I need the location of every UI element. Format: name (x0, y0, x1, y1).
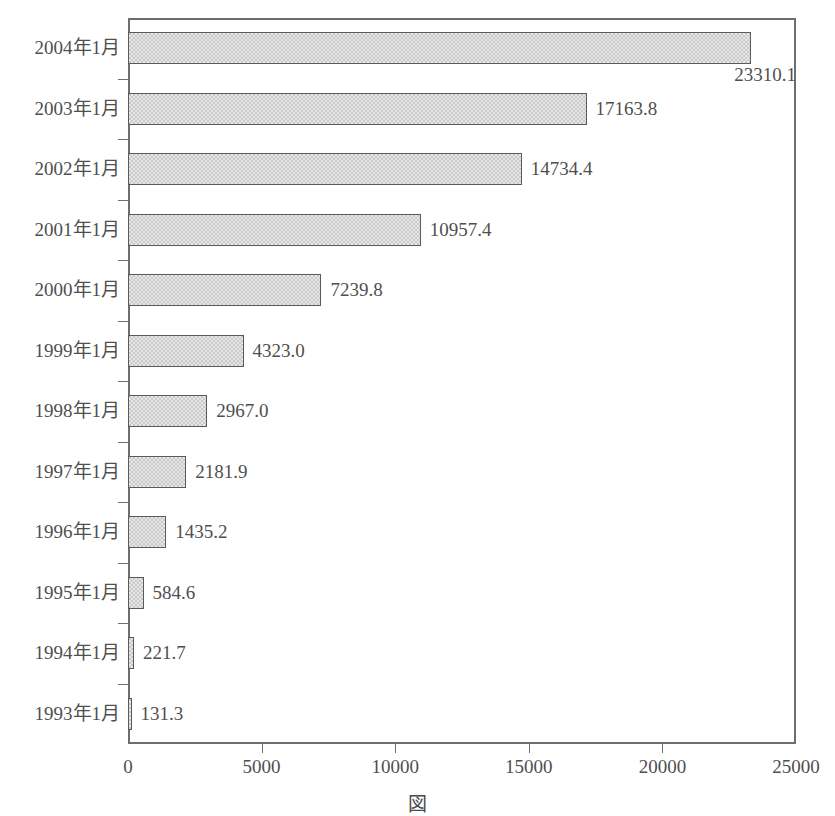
bar-value-label: 2181.9 (186, 456, 247, 488)
bar-track: 2967.0 (128, 381, 835, 442)
bar[interactable] (128, 32, 751, 64)
bar-track: 23310.1 (128, 18, 835, 79)
bar[interactable] (128, 214, 421, 246)
bar-value-label: 7239.8 (321, 274, 382, 306)
y-axis-tick (118, 623, 128, 624)
y-axis-tick (118, 502, 128, 503)
bar-track: 7239.8 (128, 260, 835, 321)
figure-caption: 図 (0, 789, 835, 816)
category-label: 1998年1月 (0, 381, 120, 442)
bar[interactable] (128, 153, 522, 185)
y-axis-tick (118, 79, 128, 80)
x-axis-tick-label: 10000 (371, 756, 419, 778)
y-axis-tick (118, 381, 128, 382)
category-label: 1994年1月 (0, 623, 120, 684)
x-axis-tick (395, 744, 396, 753)
bar[interactable] (128, 335, 244, 367)
bar-track: 4323.0 (128, 321, 835, 382)
category-label: 2002年1月 (0, 139, 120, 200)
bar-track: 10957.4 (128, 200, 835, 261)
bar-value-label: 221.7 (134, 637, 186, 669)
bar-value-label: 1435.2 (166, 516, 227, 548)
x-axis-tick (262, 744, 263, 753)
x-axis-tick (529, 744, 530, 753)
bar-track: 2181.9 (128, 442, 835, 503)
chart-row: 1994年1月221.7 (0, 623, 835, 684)
chart-row: 2002年1月14734.4 (0, 139, 835, 200)
chart-row: 1998年1月2967.0 (0, 381, 835, 442)
bar-track: 131.3 (128, 684, 835, 745)
bar[interactable] (128, 577, 144, 609)
x-axis-tick-label: 25000 (772, 756, 820, 778)
x-axis-tick-label: 15000 (505, 756, 553, 778)
category-label: 2004年1月 (0, 18, 120, 79)
category-label: 1999年1月 (0, 321, 120, 382)
y-axis-tick (118, 321, 128, 322)
category-label: 2001年1月 (0, 200, 120, 261)
y-axis-tick (118, 563, 128, 564)
y-axis-tick (118, 260, 128, 261)
bar-track: 17163.8 (128, 79, 835, 140)
bar-value-label: 2967.0 (207, 395, 268, 427)
x-axis-tick-label: 0 (123, 756, 133, 778)
bar[interactable] (128, 456, 186, 488)
bar[interactable] (128, 395, 207, 427)
bar-value-label: 14734.4 (522, 153, 593, 185)
bar-value-label: 131.3 (132, 698, 184, 730)
bar[interactable] (128, 516, 166, 548)
bar-track: 221.7 (128, 623, 835, 684)
chart-row: 1997年1月2181.9 (0, 442, 835, 503)
bar-value-label: 4323.0 (244, 335, 305, 367)
x-axis-tick-label: 5000 (243, 756, 281, 778)
y-axis-tick (118, 442, 128, 443)
bar[interactable] (128, 93, 587, 125)
bar-value-label: 17163.8 (587, 93, 658, 125)
bar[interactable] (128, 274, 321, 306)
category-label: 2003年1月 (0, 79, 120, 140)
chart-row: 2004年1月23310.1 (0, 18, 835, 79)
category-label: 1995年1月 (0, 563, 120, 624)
chart-row: 2001年1月10957.4 (0, 200, 835, 261)
bar-value-label: 10957.4 (421, 214, 492, 246)
bar-track: 584.6 (128, 563, 835, 624)
chart-row: 2000年1月7239.8 (0, 260, 835, 321)
chart-row: 1999年1月4323.0 (0, 321, 835, 382)
bar-track: 1435.2 (128, 502, 835, 563)
x-axis-tick (662, 744, 663, 753)
category-label: 2000年1月 (0, 260, 120, 321)
chart-row: 1993年1月131.3 (0, 684, 835, 745)
y-axis-tick (118, 684, 128, 685)
category-label: 1997年1月 (0, 442, 120, 503)
y-axis-tick (118, 200, 128, 201)
category-label: 1996年1月 (0, 502, 120, 563)
x-axis-tick-label: 20000 (639, 756, 687, 778)
category-label: 1993年1月 (0, 684, 120, 745)
y-axis-tick (118, 139, 128, 140)
chart-row: 2003年1月17163.8 (0, 79, 835, 140)
bar-value-label: 584.6 (144, 577, 196, 609)
chart-row: 1995年1月584.6 (0, 563, 835, 624)
bar-track: 14734.4 (128, 139, 835, 200)
chart-row: 1996年1月1435.2 (0, 502, 835, 563)
